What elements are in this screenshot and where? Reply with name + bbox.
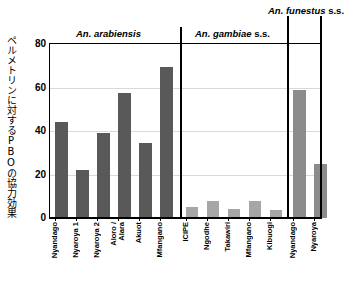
x-label-mfangano-arabiensis: Mfangano (156, 222, 164, 257)
group-header-funestus: An. funestus s.s. (268, 5, 344, 16)
bar-nyandago-arabiensis (55, 122, 68, 218)
group-header-funestus-roman: s.s. (326, 5, 345, 16)
y-tick-20: 20 (24, 168, 46, 179)
x-label-mfangano-gambiae: Mfangano (245, 222, 253, 257)
x-tick-12 (314, 218, 315, 221)
x-tick-4 (139, 218, 140, 221)
group-header-gambiae: An. gambiae s.s. (195, 28, 270, 39)
x-label-aloro-alara: Aloro /Alara (110, 222, 126, 246)
x-tick-8 (228, 218, 229, 221)
y-axis-tick-labels: 80 60 40 20 0 (20, 0, 46, 286)
x-tick-9 (249, 218, 250, 221)
y-axis-title: ペルメトリンに対するPBOの協力効果 (2, 28, 20, 224)
x-label-akuot: Akuot (135, 222, 143, 243)
bars-container (49, 43, 322, 218)
x-tick-5 (160, 218, 161, 221)
bar-nyaroya2-arabiensis (97, 133, 110, 218)
x-tick-7 (207, 218, 208, 221)
bar-mfangano-gambiae (249, 201, 261, 219)
x-label-ngodhe: Ngodhe (203, 222, 211, 250)
bar-akuot-arabiensis (139, 143, 152, 218)
plot-right-edge (320, 16, 322, 218)
x-label-takawiri: Takawiri (224, 222, 232, 251)
group-header-gambiae-italic: An. gambiae (195, 28, 252, 39)
x-tick-1 (76, 218, 77, 221)
x-label-nyandago-arabiensis: Nyandago (51, 222, 59, 258)
bar-chart-figure: ペルメトリンに対するPBOの協力効果 80 60 40 20 0 (0, 0, 345, 286)
y-tick-80: 80 (24, 38, 46, 49)
x-label-nyaroya2: Nyaroya 2 (93, 222, 101, 258)
x-label-nyaroya-funestus: Nyaroya (310, 222, 318, 252)
x-tick-0 (55, 218, 56, 221)
bar-nyandago-funestus (293, 90, 306, 218)
bar-aloro-alara-arabiensis (118, 93, 131, 218)
x-tick-2 (97, 218, 98, 221)
bar-nyaroya1-arabiensis (76, 170, 89, 218)
x-tick-3 (118, 218, 119, 221)
bar-mfangano-arabiensis (160, 67, 173, 218)
y-tick-0: 0 (24, 212, 46, 223)
group-separator-1 (180, 27, 182, 218)
y-tick-60: 60 (24, 81, 46, 92)
x-label-aloro-alara-line2: Alara (117, 222, 126, 241)
x-label-icipe: ICIPE (182, 222, 190, 242)
group-header-arabiensis: An. arabiensis (76, 28, 141, 39)
x-label-nyandago-funestus: Nyandago (289, 222, 297, 258)
x-tick-11 (293, 218, 294, 221)
bar-ngodhe-gambiae (207, 201, 219, 219)
group-separator-2 (287, 16, 289, 218)
group-header-gambiae-roman: s.s. (252, 28, 271, 39)
group-header-funestus-italic: An. funestus (268, 5, 326, 16)
x-tick-10 (270, 218, 271, 221)
group-header-arabiensis-italic: An. arabiensis (76, 28, 141, 39)
x-tick-6 (186, 218, 187, 221)
x-label-kibuogi: Kibuogi (266, 222, 274, 250)
y-tick-40: 40 (24, 125, 46, 136)
x-label-nyaroya1: Nyaroya 1 (72, 222, 80, 258)
